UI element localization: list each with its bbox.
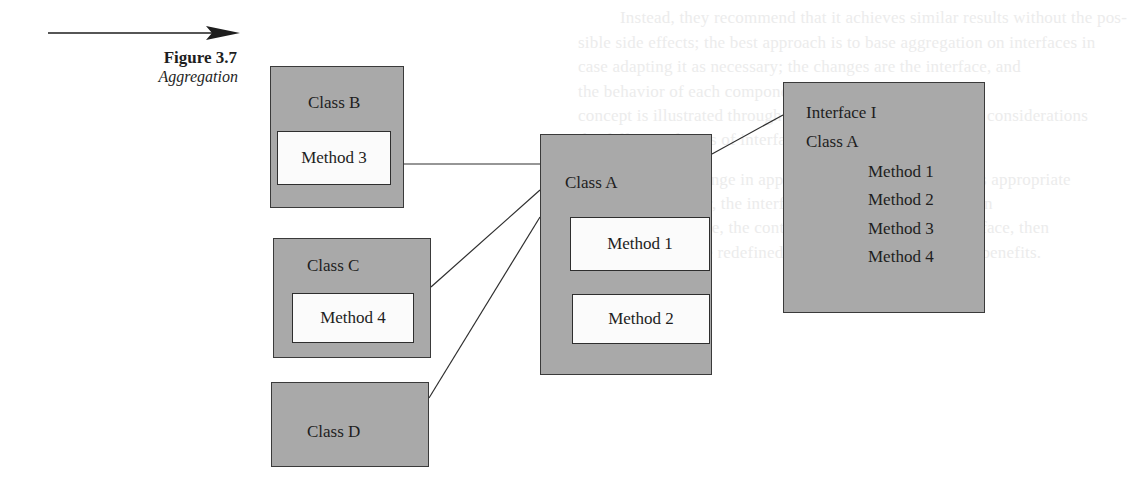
class-a-method-1-box: Method 1 [570,217,710,271]
class-b-box: Class B Method 3 [270,66,404,208]
method-label: Method 1 [607,234,673,254]
interface-box: Interface I Class A Method 1 Method 2 Me… [783,82,985,313]
method-label: Method 3 [301,148,367,168]
interface-label: Interface I [806,103,876,123]
class-d-label: Class D [307,422,360,442]
figure-arrow-icon [48,26,240,40]
method-label: Method 4 [320,308,386,328]
class-b-method-box: Method 3 [277,131,391,185]
class-a-label: Class A [565,173,617,193]
class-d-box: Class D [271,382,429,467]
class-c-label: Class C [307,256,359,276]
line-a-to-interface [712,115,783,154]
method-label: Method 2 [608,309,674,329]
interface-class-label: Class A [806,132,858,152]
class-c-box: Class C Method 4 [273,238,431,358]
line-c-to-a [431,190,540,287]
figure-subtitle: Aggregation [159,68,238,86]
figure-title: Figure 3.7 [164,48,237,68]
class-c-method-box: Method 4 [292,293,414,343]
class-a-box: Class A Method 1 Method 2 [540,134,712,375]
interface-method-1: Method 1 [868,162,934,182]
line-d-to-a [429,217,540,398]
class-a-method-2-box: Method 2 [572,294,710,344]
interface-method-2: Method 2 [868,190,934,210]
interface-method-4: Method 4 [868,247,934,267]
class-b-label: Class B [308,93,360,113]
interface-method-3: Method 3 [868,219,934,239]
